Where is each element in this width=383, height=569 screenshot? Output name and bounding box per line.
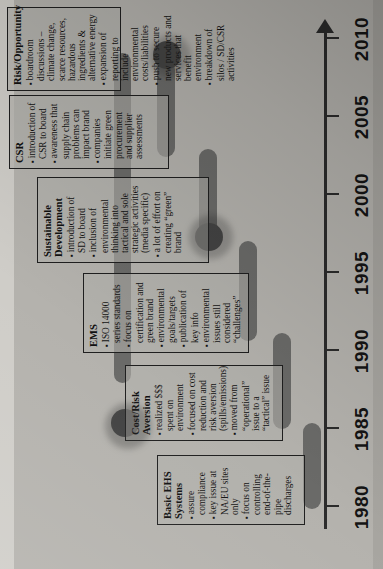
- year-tick: [327, 427, 339, 429]
- timeline-diagram: Basic EHS Systems assure compliance key …: [0, 0, 383, 569]
- stage-bullet: focus on controlling end-of-the-pipe dis…: [241, 461, 293, 519]
- year-label-1980: 1980: [351, 485, 373, 529]
- stage-bullet: boardroom discussions – climate change, …: [25, 13, 97, 85]
- stage-bullet: breakdown of silos / SD/CSR activities: [204, 13, 236, 85]
- stage-bullet: expansion of reporting to include enviro…: [98, 13, 150, 85]
- scan-edge-bottom: [373, 0, 383, 569]
- stage-bullet: ISO 14000 series standards: [101, 279, 122, 347]
- year-label-1995: 1995: [351, 251, 373, 295]
- stage-box-sustainable-development[interactable]: Sustainable Development introduction of …: [37, 177, 209, 263]
- stage-title: CSR: [14, 101, 25, 163]
- stage-bullet: awareness that supply chain problems can…: [49, 101, 91, 163]
- year-label-1985: 1985: [351, 407, 373, 451]
- year-label-2010: 2010: [351, 17, 373, 61]
- stage-title: Basic EHS Systems: [162, 461, 184, 519]
- stage-bullet: introduction of CSR to board: [27, 101, 48, 163]
- stage-bullets: boardroom discussions – climate change, …: [25, 13, 236, 85]
- stage-box-cost-risk-aversion[interactable]: Cost/Risk Aversion realized $$$ spent on…: [125, 365, 283, 441]
- stage-bullet: assure compliance: [186, 461, 207, 519]
- year-tick: [327, 271, 339, 273]
- stage-bullet: a lot of effort on creating “green” bran…: [152, 183, 184, 257]
- year-label-2000: 2000: [351, 173, 373, 217]
- stage-bullet: moved from “operational” issue to a “tac…: [229, 371, 271, 435]
- stage-bullets: realized $$$ spent on environment focuse…: [154, 371, 271, 435]
- stage-bullet: environmental goals/targets: [156, 279, 177, 347]
- stage-bullet: publication of key info: [178, 279, 199, 347]
- timeline-axis: [324, 29, 327, 529]
- stage-bullet: inclusion of environmental thinking into…: [88, 183, 150, 257]
- stage-title: EMS: [88, 279, 99, 347]
- stage-bullets: introduction of SD to board inclusion of…: [66, 183, 183, 257]
- rotated-figure-wrapper: Basic EHS Systems assure compliance key …: [0, 0, 383, 569]
- year-tick: [327, 193, 339, 195]
- stage-bullet: environmental issues still considered “c…: [201, 279, 243, 347]
- stage-box-csr[interactable]: CSR introduction of CSR to board awarene…: [9, 95, 169, 169]
- stage-box-risk-opportunity[interactable]: Risk/Opportunity boardroom discussions –…: [7, 7, 121, 91]
- stage-title: Cost/Risk Aversion: [130, 371, 152, 435]
- year-label-2005: 2005: [351, 95, 373, 139]
- stage-box-ems[interactable]: EMS ISO 14000 series standards focus on …: [83, 273, 249, 353]
- stage-bullet: companies initiate green procurement and…: [92, 101, 144, 163]
- stage-bullet: push to secure new products and services…: [151, 13, 203, 85]
- stage-title: Risk/Opportunity: [12, 13, 23, 85]
- stage-box-basic-ehs-systems[interactable]: Basic EHS Systems assure compliance key …: [157, 455, 305, 525]
- year-label-1990: 1990: [351, 329, 373, 373]
- year-tick: [327, 349, 339, 351]
- stage-bullets: ISO 14000 series standards focus on cert…: [101, 279, 243, 347]
- stage-title: Sustainable Development: [42, 183, 64, 257]
- stage-bullet: focus on certification and green brand: [123, 279, 155, 347]
- stage-bullet: key issue at NA/EU sites only: [208, 461, 240, 519]
- stage-bullet: realized $$$ spent on environment: [154, 371, 186, 435]
- year-tick: [327, 505, 339, 507]
- stair-bar-1: [303, 423, 321, 509]
- stage-bullet: introduction of SD to board: [66, 183, 87, 257]
- stage-bullet: focused on cost reduction and risk avers…: [187, 371, 229, 435]
- year-tick: [327, 115, 339, 117]
- timeline-arrow-icon: [316, 19, 334, 33]
- stage-bullets: introduction of CSR to board awareness t…: [27, 101, 144, 163]
- stage-bullets: assure compliance key issue at NA/EU sit…: [186, 461, 293, 519]
- year-tick: [327, 37, 339, 39]
